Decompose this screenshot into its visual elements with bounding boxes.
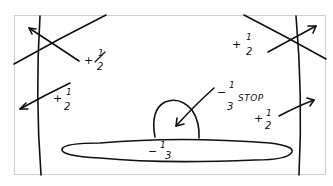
svg-text:1: 1 bbox=[266, 108, 272, 118]
svg-text:2: 2 bbox=[246, 46, 252, 57]
svg-text:STOP: STOP bbox=[238, 93, 264, 103]
exposure-diagram: + 1 2 + 1 2 + 1 2 + 1 2 − 1 3 STOP − 1 3 bbox=[0, 0, 333, 186]
svg-text:2: 2 bbox=[97, 61, 103, 72]
svg-text:+: + bbox=[232, 38, 241, 51]
svg-text:3: 3 bbox=[227, 101, 233, 112]
svg-text:1: 1 bbox=[66, 87, 72, 97]
svg-text:1: 1 bbox=[229, 80, 235, 90]
svg-text:+: + bbox=[254, 112, 263, 125]
svg-text:1: 1 bbox=[246, 32, 252, 42]
svg-text:+: + bbox=[53, 92, 62, 105]
svg-text:−: − bbox=[217, 86, 226, 99]
svg-text:2: 2 bbox=[64, 101, 70, 112]
svg-text:+: + bbox=[84, 54, 93, 67]
svg-text:3: 3 bbox=[165, 150, 171, 161]
svg-text:−: − bbox=[148, 145, 157, 158]
svg-text:2: 2 bbox=[265, 120, 271, 131]
svg-text:1: 1 bbox=[160, 140, 166, 150]
